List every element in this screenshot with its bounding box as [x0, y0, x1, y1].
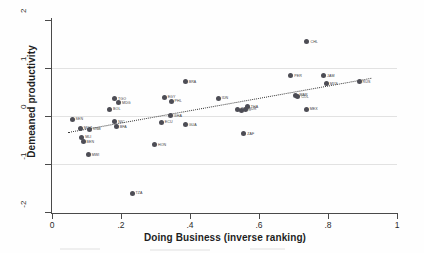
data-point-label: JAM	[327, 74, 335, 78]
data-point-label: ECU	[165, 120, 173, 124]
data-point	[130, 191, 135, 196]
gridline	[52, 116, 397, 117]
x-axis-tick	[190, 214, 191, 219]
gridline	[52, 164, 397, 165]
data-point-label: IDN	[222, 96, 229, 100]
data-point	[321, 73, 326, 78]
data-point	[116, 100, 121, 105]
data-point	[304, 39, 309, 44]
scatter-chart-figure: Demeaned productivity SENMOZMLIBENGNBMWI…	[0, 0, 424, 253]
scan-artifact	[150, 249, 210, 251]
x-axis-tick	[397, 214, 398, 219]
data-point-label: GHA	[174, 114, 182, 118]
data-point	[241, 131, 246, 136]
y-axis-tick	[45, 20, 51, 21]
y-axis-tick	[45, 164, 51, 165]
x-axis-tick-label: .8	[316, 220, 340, 230]
data-point-label: SEN	[76, 117, 84, 121]
data-point	[70, 117, 75, 122]
data-point	[243, 107, 248, 112]
data-point-label: TZA	[136, 191, 143, 195]
data-point	[81, 139, 86, 144]
data-point-label: HON	[158, 143, 166, 147]
data-point-label: GNB	[93, 127, 101, 131]
x-axis-tick	[259, 214, 260, 219]
data-point-label: TUR	[249, 107, 257, 111]
x-axis-tick-label: .4	[178, 220, 202, 230]
x-axis-tick-label: .6	[247, 220, 271, 230]
x-axis-tick	[52, 214, 53, 219]
data-point	[114, 124, 119, 129]
data-point-label: BOL	[113, 107, 121, 111]
y-axis-tick	[45, 68, 51, 69]
x-axis-title: Doing Business (inverse ranking)	[52, 232, 398, 243]
gridline	[52, 68, 397, 69]
scan-artifact	[60, 248, 100, 250]
y-axis-tick	[45, 116, 51, 117]
y-axis-tick-label: 2	[19, 9, 28, 31]
x-axis-line	[51, 213, 398, 214]
data-point-label: MYS	[330, 82, 338, 86]
data-point	[183, 79, 188, 84]
x-axis-tick-label: .2	[109, 220, 133, 230]
data-point	[159, 120, 164, 125]
data-point-label: MWI	[92, 153, 100, 157]
data-point-label: GUA	[189, 123, 197, 127]
data-point	[162, 95, 167, 100]
data-point	[152, 142, 157, 147]
y-axis-tick-label: -2	[19, 201, 28, 223]
plot-area: SENMOZMLIBENGNBMWIBOLTGOMDGNICBFATZAHONE…	[52, 20, 397, 212]
data-point	[86, 152, 91, 157]
data-point-label: BFA	[120, 125, 127, 129]
data-point-label: PER	[294, 74, 302, 78]
scan-artifact	[250, 248, 285, 250]
data-point	[357, 79, 362, 84]
data-point-label: RUS	[363, 80, 371, 84]
x-axis-tick	[121, 214, 122, 219]
data-point	[183, 122, 188, 127]
y-axis-tick-label: -1	[19, 153, 28, 175]
y-axis-tick-label: 1	[19, 57, 28, 79]
data-point	[168, 113, 173, 118]
data-point-label: MLI	[85, 135, 91, 139]
data-point	[87, 127, 92, 132]
data-point	[78, 126, 83, 131]
data-point	[288, 73, 293, 78]
y-axis-tick-label: 0	[19, 105, 28, 127]
data-point-label: ZAF	[247, 132, 254, 136]
data-point	[295, 94, 300, 99]
data-point-label: NIC	[118, 120, 125, 124]
y-axis-tick	[45, 212, 51, 213]
x-axis-tick-label: 0	[40, 220, 64, 230]
data-point-label: PHL	[175, 99, 182, 103]
data-point-label: COL	[301, 95, 309, 99]
data-point-label: MEX	[310, 107, 318, 111]
data-point	[107, 107, 112, 112]
data-point-label: CHL	[310, 40, 318, 44]
data-point	[216, 96, 221, 101]
data-point	[169, 99, 174, 104]
data-point-label: BEN	[87, 140, 95, 144]
x-axis-tick-label: 1	[385, 220, 409, 230]
x-axis-tick	[328, 214, 329, 219]
data-point-label: BRA	[189, 80, 197, 84]
data-point	[304, 107, 309, 112]
data-point-label: MDG	[122, 101, 131, 105]
